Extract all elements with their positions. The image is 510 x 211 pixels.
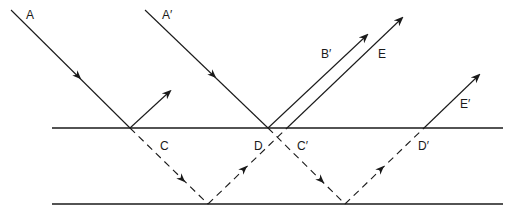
ray-b-prime (268, 37, 365, 128)
diagram-canvas (0, 0, 510, 211)
ray-a-prime-refracted-c-prime (268, 128, 424, 204)
label-e-prime: E′ (460, 98, 470, 110)
label-c-prime: C′ (297, 140, 308, 152)
ray-a-incident (11, 10, 130, 128)
label-d-prime: D′ (418, 140, 429, 152)
label-d: D (254, 140, 263, 152)
ray-a-refracted-c (130, 128, 287, 204)
label-e: E (378, 48, 386, 60)
ray-e (287, 20, 400, 128)
label-b-prime: B′ (321, 48, 331, 60)
ray-a-prime-incident (145, 10, 268, 128)
label-a: A (26, 9, 34, 21)
label-a-prime: A′ (162, 9, 172, 21)
label-c: C (160, 140, 169, 152)
ray-a-reflected (130, 93, 168, 128)
